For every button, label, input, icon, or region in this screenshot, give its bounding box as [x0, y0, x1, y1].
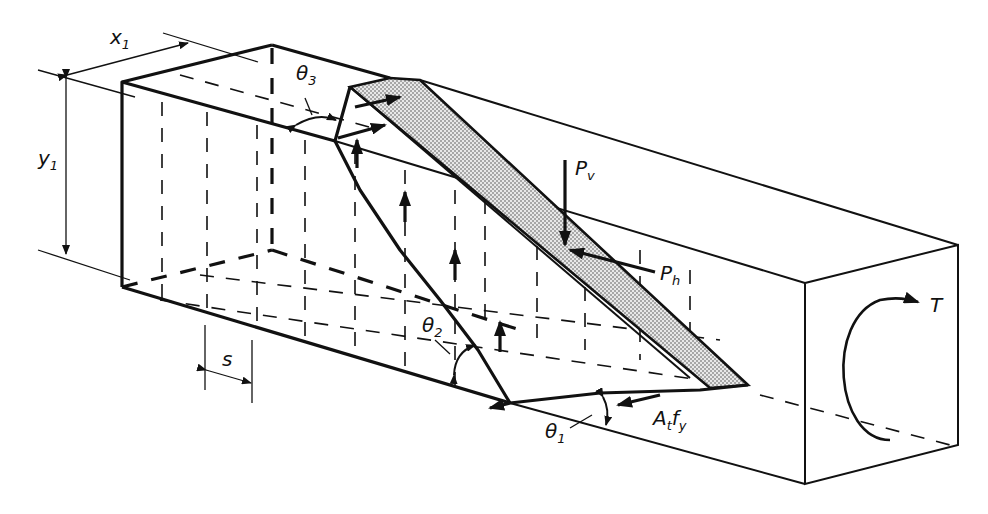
torque-arrow: T [843, 293, 944, 440]
label-x1: x1 [109, 25, 130, 52]
label-pv: Pv [575, 156, 595, 183]
label-y1: y1 [37, 146, 58, 173]
angle-theta2: θ2 [422, 313, 475, 375]
stirrup-force-arrows [338, 97, 660, 408]
label-theta2: θ2 [422, 313, 443, 340]
label-ph: Ph [660, 261, 680, 288]
compression-zone [350, 78, 748, 388]
label-theta3: θ3 [296, 61, 317, 88]
dimension-s: s [205, 325, 252, 403]
label-theta1: θ1 [545, 419, 566, 446]
beam-torsion-diagram: x1 y1 s Pv Ph [0, 0, 988, 514]
label-torque: T [930, 293, 944, 317]
label-atfy: Atfy [651, 406, 687, 433]
beam-outline [122, 45, 958, 484]
angle-theta3: θ3 [296, 61, 336, 125]
label-s: s [222, 347, 232, 371]
dimension-x1: x1 [38, 25, 258, 97]
dimension-y1: y1 [37, 78, 130, 280]
